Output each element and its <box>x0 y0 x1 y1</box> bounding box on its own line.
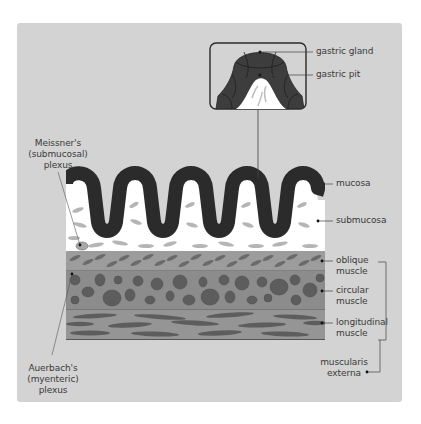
label-line: Meissner's <box>18 138 98 149</box>
label-gastric-pit: gastric pit <box>316 69 360 80</box>
gastric-inset <box>210 43 313 109</box>
label-line: (submucosal) <box>18 149 98 160</box>
oblique-muscle-layer <box>66 251 325 271</box>
label-auerbach-plexus: Auerbach's (myenteric) plexus <box>18 363 88 396</box>
label-submucosa: submucosa <box>336 215 386 226</box>
label-line: Auerbach's <box>18 363 88 374</box>
label-line: (myenteric) <box>18 374 88 385</box>
label-line: muscularis <box>318 357 370 368</box>
label-gastric-gland: gastric gland <box>316 46 373 57</box>
label-line: longitudinal <box>336 317 388 328</box>
label-line: muscle <box>336 266 368 277</box>
label-longitudinal-muscle: longitudinal muscle <box>336 317 388 339</box>
tissue-block <box>66 173 327 340</box>
label-muscularis-externa: muscularis externa <box>318 357 370 379</box>
label-line: plexus <box>18 160 98 171</box>
label-line: muscle <box>336 296 369 307</box>
label-line: plexus <box>18 385 88 396</box>
right-leaders <box>318 184 386 372</box>
meissner-plexus-node <box>76 242 88 250</box>
label-circular-muscle: circular muscle <box>336 285 369 307</box>
label-mucosa: mucosa <box>336 178 371 189</box>
label-line: oblique <box>336 255 368 266</box>
label-line: muscle <box>336 328 388 339</box>
label-line: circular <box>336 285 369 296</box>
label-oblique-muscle: oblique muscle <box>336 255 368 277</box>
label-meissner-plexus: Meissner's (submucosal) plexus <box>18 138 98 171</box>
label-line: externa <box>318 368 370 379</box>
